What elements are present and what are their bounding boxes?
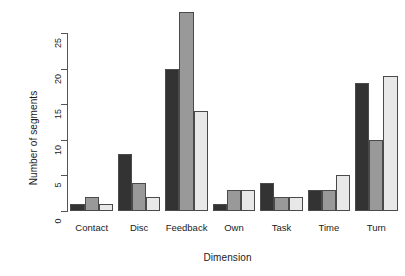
bar <box>336 175 350 211</box>
bar-group <box>308 17 351 211</box>
x-axis-title: Dimension <box>55 252 400 263</box>
bar <box>227 190 241 211</box>
bar <box>85 197 99 211</box>
y-axis-tick-label-text: 25 <box>53 32 63 54</box>
y-axis-tick-label: 25 <box>34 27 58 39</box>
x-axis-title-text: Dimension <box>203 252 251 263</box>
plot-area <box>68 17 400 211</box>
bar-group <box>118 17 161 211</box>
y-axis-tick-label: 15 <box>34 98 58 110</box>
bar <box>70 204 84 211</box>
bar <box>383 76 397 211</box>
bar-chart-figure: Number of segments 0510152025 ContactDis… <box>0 0 405 276</box>
y-axis-tick-label: 20 <box>34 63 58 75</box>
bar-group <box>355 17 398 211</box>
bar-group <box>165 17 208 211</box>
bar <box>241 190 255 211</box>
bar <box>274 197 288 211</box>
bar <box>165 69 179 211</box>
bar <box>289 197 303 211</box>
bar-group <box>70 17 113 211</box>
bar <box>308 190 322 211</box>
y-axis-tick-label-text: 10 <box>53 139 63 161</box>
x-axis-tick-label: Turn <box>335 222 405 233</box>
bar-group <box>260 17 303 211</box>
y-axis-tick-label: 5 <box>34 169 58 181</box>
y-axis-tick-label-text: 5 <box>53 174 63 196</box>
bar <box>132 183 146 211</box>
y-axis-tick-label: 10 <box>34 134 58 146</box>
bar <box>179 12 193 211</box>
y-axis-tick-label-text: 15 <box>53 103 63 125</box>
bar <box>146 197 160 211</box>
bar <box>118 154 132 211</box>
y-axis-tick-label-text: 20 <box>53 68 63 90</box>
bar <box>355 83 369 211</box>
bar <box>260 183 274 211</box>
bar <box>99 204 113 211</box>
bar <box>194 111 208 211</box>
bar <box>213 204 227 211</box>
bar-group <box>213 17 256 211</box>
bar <box>369 140 383 211</box>
y-axis-tick-label: 0 <box>34 205 58 217</box>
bar <box>322 190 336 211</box>
